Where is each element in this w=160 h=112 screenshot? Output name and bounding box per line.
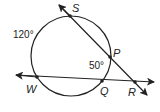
geometry-diagram: S P W Q R 120° 50°: [0, 0, 160, 112]
point-W: [35, 75, 39, 79]
label-arc-50: 50°: [89, 60, 104, 71]
point-R: [133, 80, 137, 84]
point-Q: [100, 79, 104, 83]
circle: [31, 16, 111, 96]
label-arc-120: 120°: [13, 29, 34, 40]
label-S: S: [72, 2, 80, 14]
point-P: [108, 55, 112, 59]
label-P: P: [113, 47, 121, 59]
label-W: W: [26, 83, 38, 95]
label-Q: Q: [100, 85, 109, 97]
point-S: [68, 14, 72, 18]
label-R: R: [128, 86, 136, 98]
